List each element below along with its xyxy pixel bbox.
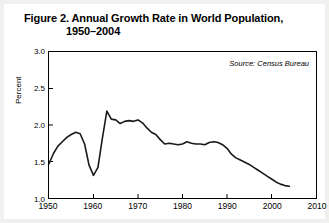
y-axis-ticks (49, 89, 53, 162)
x-axis-tick-label: 1980 (173, 201, 192, 211)
x-axis-tick-label: 2000 (263, 201, 282, 211)
figure-canvas: Figure 2. Annual Growth Rate in World Po… (4, 4, 325, 219)
figure-title: Figure 2. Annual Growth Rate in World Po… (24, 12, 319, 38)
data-line-series (49, 111, 289, 186)
figure-title-line-2: 1950–2004 (24, 25, 319, 38)
line-chart-svg (49, 52, 316, 198)
x-axis-tick-label: 1960 (83, 201, 102, 211)
x-axis-tick-label: 1970 (128, 201, 147, 211)
plot-area: Source: Census Bureau (48, 51, 317, 199)
x-axis-ticks (94, 194, 272, 198)
x-axis-tick-label: 1950 (39, 201, 58, 211)
y-axis-tick-labels: 1.01.52.02.53.0 (4, 51, 45, 199)
x-axis-tick-label: 2010 (308, 201, 327, 211)
y-axis-tick-label: 2.0 (34, 121, 45, 130)
x-axis-tick-labels: 1950196019701980199020002010 (48, 201, 317, 215)
y-axis-tick-label: 2.5 (34, 84, 45, 93)
figure-title-line-1: Figure 2. Annual Growth Rate in World Po… (24, 12, 319, 25)
x-axis-tick-label: 1990 (218, 201, 237, 211)
figure-container: Figure 2. Annual Growth Rate in World Po… (0, 0, 329, 223)
y-axis-tick-label: 1.5 (34, 158, 45, 167)
y-axis-tick-label: 3.0 (34, 47, 45, 56)
